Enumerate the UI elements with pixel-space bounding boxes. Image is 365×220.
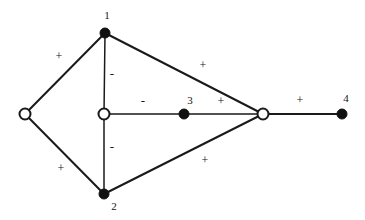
graph-node-hollow — [99, 109, 110, 120]
edge-sign-label: + — [297, 93, 304, 107]
edge-sign-label: + — [200, 58, 207, 72]
graph-node-hollow — [20, 109, 31, 120]
graph-node-filled — [179, 109, 189, 119]
graph-node-filled — [99, 189, 109, 199]
graph-node-hollow — [258, 109, 269, 120]
node-label: 3 — [187, 94, 193, 106]
edge-sign-label: + — [56, 49, 63, 63]
graph-node-filled — [337, 109, 347, 119]
edge-sign-label: + — [218, 94, 225, 108]
signed-graph-figure: ++---++++ 1234 — [0, 0, 365, 220]
edge-sign-label: - — [110, 139, 114, 154]
edge-sign-label: + — [58, 161, 65, 175]
node-label: 4 — [343, 92, 349, 104]
node-label: 2 — [111, 200, 117, 212]
node-labels-layer: 1234 — [104, 9, 349, 212]
graph-edge — [25, 33, 105, 114]
graph-edge — [105, 33, 263, 114]
graph-canvas: ++---++++ 1234 — [0, 0, 365, 220]
edge-sign-label: - — [141, 93, 145, 108]
node-label: 1 — [104, 9, 110, 21]
edge-sign-label: + — [202, 153, 209, 167]
edge-sign-label: - — [110, 66, 114, 81]
graph-edge — [104, 114, 263, 194]
graph-node-filled — [100, 28, 110, 38]
graph-edge — [104, 33, 105, 114]
graph-edge — [25, 114, 104, 194]
